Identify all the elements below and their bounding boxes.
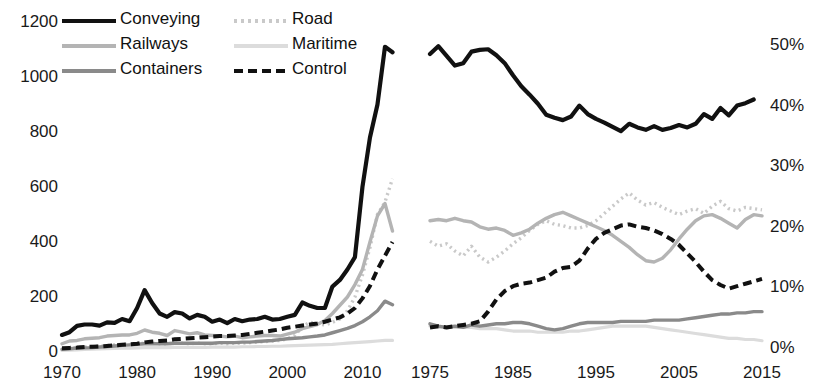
right-xtick-1975: 1975 xyxy=(395,363,465,383)
right-series-railways xyxy=(430,212,762,262)
right-xtick-1995: 1995 xyxy=(561,363,631,383)
legend-swatch-maritime xyxy=(234,44,288,47)
legend-label-control: Control xyxy=(292,59,347,79)
legend-swatch-railways xyxy=(62,44,116,47)
legend-swatch-containers xyxy=(62,69,116,72)
left-xtick-1990: 1990 xyxy=(177,363,247,383)
legend-label-railways: Railways xyxy=(120,34,188,54)
left-xtick-2000: 2000 xyxy=(252,363,322,383)
right-xtick-1985: 1985 xyxy=(478,363,548,383)
right-ytick-0pct: 0% xyxy=(770,338,823,358)
left-ytick-800: 800 xyxy=(0,122,58,142)
legend-swatch-control xyxy=(234,69,288,73)
right-ytick-30pct: 30% xyxy=(770,156,823,176)
left-series-control xyxy=(62,242,392,348)
right-ytick-10pct: 10% xyxy=(770,277,823,297)
right-ytick-20pct: 20% xyxy=(770,217,823,237)
left-series-maritime xyxy=(62,340,392,350)
right-xtick-2015: 2015 xyxy=(727,363,797,383)
left-series-railways xyxy=(62,204,392,344)
legend-swatch-road xyxy=(234,19,288,22)
left-series-containers xyxy=(62,301,392,349)
left-xtick-1970: 1970 xyxy=(27,363,97,383)
right-ytick-40pct: 40% xyxy=(770,96,823,116)
left-ytick-600: 600 xyxy=(0,177,58,197)
left-ytick-1000: 1000 xyxy=(0,67,58,87)
right-series-maritime xyxy=(430,326,762,341)
chart-legend: Conveying Railways Containers Road Marit… xyxy=(62,8,392,82)
chart-figure: Conveying Railways Containers Road Marit… xyxy=(0,0,823,391)
right-series-control xyxy=(430,224,762,327)
right-series-road xyxy=(430,193,762,262)
legend-label-road: Road xyxy=(292,9,333,29)
right-xtick-2005: 2005 xyxy=(644,363,714,383)
right-ytick-50pct: 50% xyxy=(770,35,823,55)
left-ytick-200: 200 xyxy=(0,287,58,307)
legend-label-containers: Containers xyxy=(120,59,202,79)
legend-swatch-conveying xyxy=(62,19,116,23)
left-ytick-0: 0 xyxy=(0,342,58,362)
left-series-conveying xyxy=(62,47,392,335)
right-series-containers xyxy=(430,312,762,330)
left-series-road xyxy=(62,179,392,349)
left-xtick-1980: 1980 xyxy=(102,363,172,383)
left-xtick-2010: 2010 xyxy=(327,363,397,383)
legend-label-maritime: Maritime xyxy=(292,34,357,54)
right-series-conveying xyxy=(430,46,754,131)
left-ytick-400: 400 xyxy=(0,232,58,252)
legend-label-conveying: Conveying xyxy=(120,9,200,29)
left-ytick-1200: 1200 xyxy=(0,12,58,32)
